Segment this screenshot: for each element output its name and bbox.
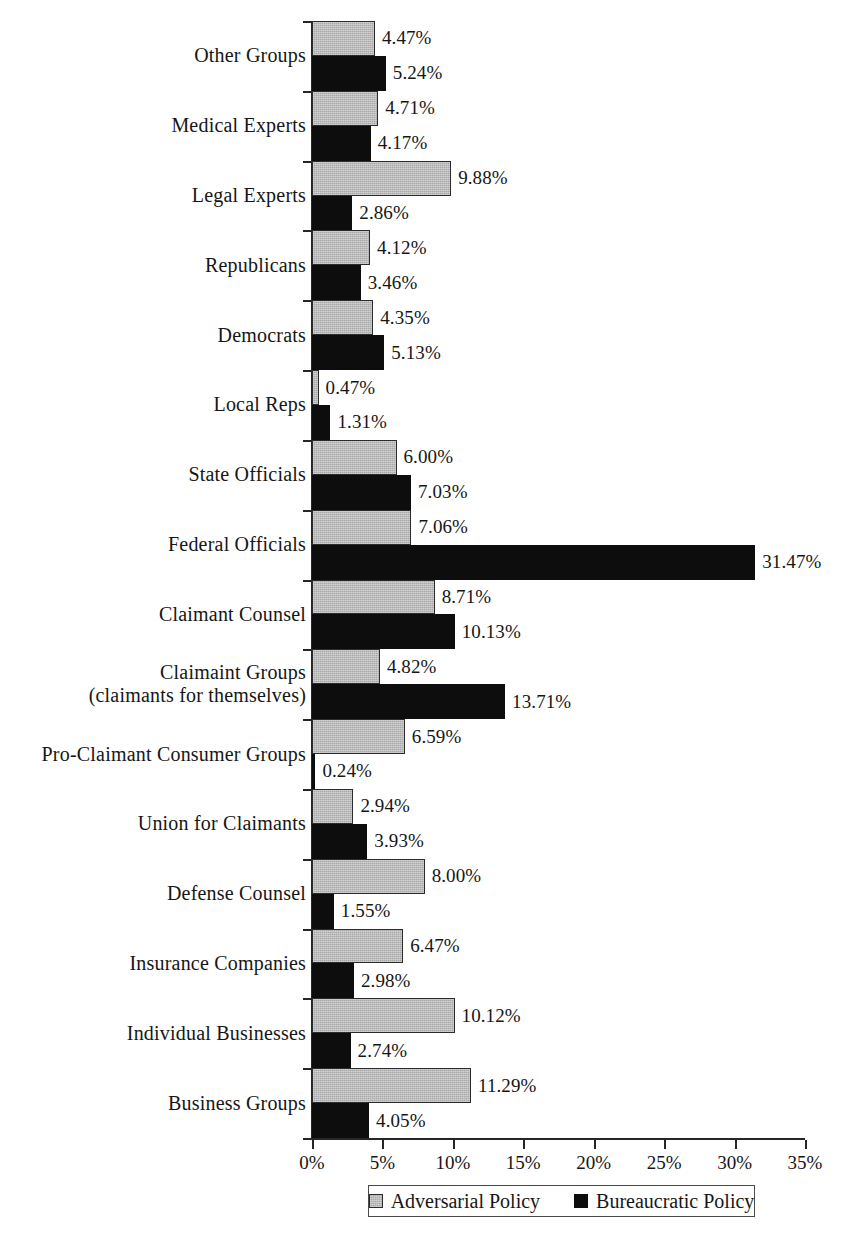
x-axis-tick: [664, 1140, 666, 1149]
plot-area: 4.47%5.24%4.71%4.17%9.88%2.86%4.12%3.46%…: [312, 21, 805, 1138]
bar-value-label: 1.55%: [341, 901, 391, 920]
y-axis-tick: [303, 300, 312, 302]
chart-category-row: 2.94%3.93%: [312, 789, 805, 859]
category-label: Democrats: [0, 324, 306, 347]
x-axis-tick-label: 20%: [576, 1152, 611, 1174]
bar-value-label: 6.00%: [404, 447, 454, 466]
bar-adversarial: [312, 580, 435, 615]
y-axis-tick: [303, 370, 312, 372]
bar-value-label: 4.12%: [377, 238, 427, 257]
y-axis-tick: [303, 21, 312, 23]
y-axis-tick: [303, 161, 312, 163]
legend-swatch-adversarial: [369, 1194, 383, 1208]
category-label: Medical Experts: [0, 114, 306, 137]
bar-adversarial: [312, 649, 380, 684]
y-axis-tick: [303, 1138, 312, 1140]
bar-adversarial: [312, 859, 425, 894]
x-axis-tick: [453, 1140, 455, 1149]
x-axis-tick: [312, 1140, 314, 1149]
y-axis-tick: [303, 649, 312, 651]
bar-value-label: 13.71%: [512, 692, 571, 711]
bar-value-label: 2.98%: [361, 971, 411, 990]
category-label: Insurance Companies: [0, 952, 306, 975]
y-axis-tick: [303, 859, 312, 861]
bar-value-label: 11.29%: [478, 1076, 536, 1095]
bar-value-label: 2.74%: [358, 1041, 408, 1060]
category-label: Claimaint Groups (claimants for themselv…: [0, 661, 306, 707]
bar-bureaucratic: [312, 405, 330, 440]
category-label: Other Groups: [0, 44, 306, 67]
category-label: Claimant Counsel: [0, 603, 306, 626]
category-label: Legal Experts: [0, 184, 306, 207]
y-axis-tick: [303, 580, 312, 582]
legend-label: Adversarial Policy: [391, 1191, 540, 1211]
bar-value-label: 1.31%: [337, 412, 387, 431]
bar-bureaucratic: [312, 475, 411, 510]
x-axis-tick: [805, 1140, 807, 1149]
bar-value-label: 8.00%: [432, 866, 482, 885]
chart-category-row: 6.47%2.98%: [312, 929, 805, 999]
bar-adversarial: [312, 91, 378, 126]
x-axis-tick: [382, 1140, 384, 1149]
category-label: Federal Officials: [0, 533, 306, 556]
bar-bureaucratic: [312, 614, 455, 649]
bar-adversarial: [312, 1068, 471, 1103]
chart-category-row: 8.71%10.13%: [312, 580, 805, 650]
bar-adversarial: [312, 719, 405, 754]
bar-value-label: 4.05%: [376, 1111, 426, 1130]
bar-bureaucratic: [312, 56, 386, 91]
bar-value-label: 2.86%: [359, 203, 409, 222]
bar-bureaucratic: [312, 196, 352, 231]
bar-bureaucratic: [312, 754, 315, 789]
bar-adversarial: [312, 370, 319, 405]
category-label: Individual Businesses: [0, 1022, 306, 1045]
chart-category-row: 8.00%1.55%: [312, 859, 805, 929]
category-label-column: Other GroupsMedical ExpertsLegal Experts…: [0, 21, 306, 1138]
bar-value-label: 7.03%: [418, 482, 468, 501]
x-axis-tick-label: 30%: [717, 1152, 752, 1174]
bar-bureaucratic: [312, 335, 384, 370]
y-axis-tick: [303, 510, 312, 512]
bar-adversarial: [312, 21, 375, 56]
bar-value-label: 3.93%: [374, 831, 424, 850]
bar-adversarial: [312, 789, 353, 824]
category-label: Union for Claimants: [0, 812, 306, 835]
bar-adversarial: [312, 230, 370, 265]
bar-value-label: 4.71%: [385, 98, 435, 117]
chart-category-row: 4.82%13.71%: [312, 649, 805, 719]
chart-category-row: 0.47%1.31%: [312, 370, 805, 440]
x-axis-tick-label: 15%: [506, 1152, 541, 1174]
bar-value-label: 4.47%: [382, 28, 432, 47]
chart-category-row: 7.06%31.47%: [312, 510, 805, 580]
bar-value-label: 4.35%: [380, 308, 430, 327]
category-label: State Officials: [0, 463, 306, 486]
bar-value-label: 31.47%: [762, 552, 821, 571]
category-label: Business Groups: [0, 1092, 306, 1115]
chart-category-row: 9.88%2.86%: [312, 161, 805, 231]
y-axis-tick: [303, 1068, 312, 1070]
bar-adversarial: [312, 998, 455, 1033]
bar-bureaucratic: [312, 684, 505, 719]
bar-value-label: 0.24%: [322, 761, 372, 780]
bar-bureaucratic: [312, 126, 371, 161]
bar-adversarial: [312, 510, 411, 545]
y-axis-tick: [303, 789, 312, 791]
bar-value-label: 5.13%: [391, 343, 441, 362]
bar-value-label: 10.13%: [462, 622, 521, 641]
bar-bureaucratic: [312, 1103, 369, 1138]
bar-bureaucratic: [312, 1033, 351, 1068]
x-axis-tick-label: 5%: [370, 1152, 395, 1174]
x-axis-tick: [523, 1140, 525, 1149]
bar-value-label: 2.94%: [360, 796, 410, 815]
bar-value-label: 7.06%: [418, 517, 468, 536]
bar-value-label: 5.24%: [393, 63, 443, 82]
bar-bureaucratic: [312, 824, 367, 859]
bar-value-label: 6.59%: [412, 727, 462, 746]
y-axis-tick: [303, 998, 312, 1000]
legend-entry: Bureaucratic Policy: [574, 1191, 754, 1211]
category-label: Republicans: [0, 254, 306, 277]
bar-adversarial: [312, 300, 373, 335]
chart-category-row: 4.71%4.17%: [312, 91, 805, 161]
category-label: Pro-Claimant Consumer Groups: [0, 743, 306, 766]
chart-legend: Adversarial PolicyBureaucratic Policy: [368, 1185, 755, 1217]
